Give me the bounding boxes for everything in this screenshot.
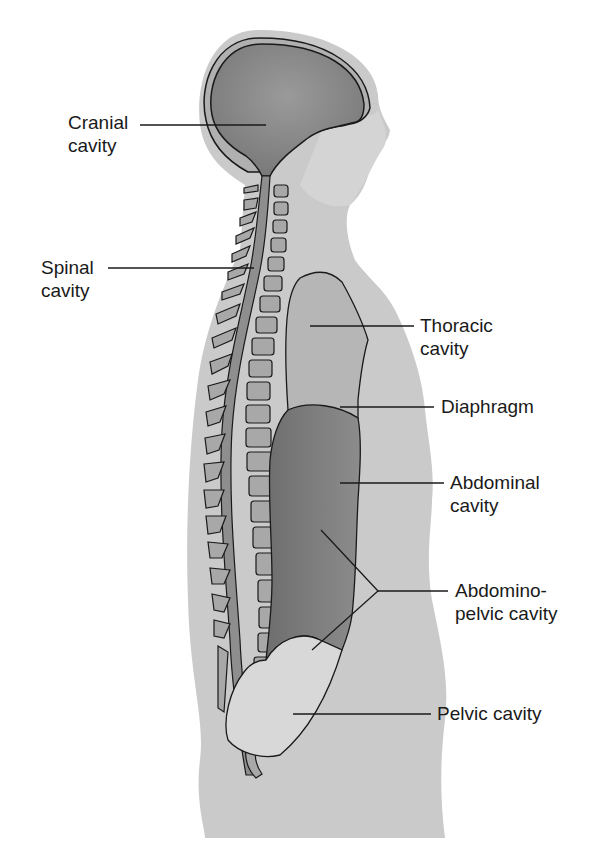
label-abdominopelvic-cavity: Abdomino- pelvic cavity bbox=[455, 579, 557, 625]
label-spinal-cavity: Spinal cavity bbox=[41, 256, 94, 302]
body-cavities-diagram: Cranial cavity Spinal cavity Thoracic ca… bbox=[0, 0, 599, 866]
label-diaphragm: Diaphragm bbox=[441, 395, 534, 418]
label-cranial-cavity: Cranial cavity bbox=[68, 111, 128, 157]
label-thoracic-cavity: Thoracic cavity bbox=[420, 314, 493, 360]
label-abdominal-cavity: Abdominal cavity bbox=[450, 471, 540, 517]
abdominal-cavity[interactable] bbox=[266, 405, 360, 660]
label-pelvic-cavity: Pelvic cavity bbox=[437, 702, 542, 725]
